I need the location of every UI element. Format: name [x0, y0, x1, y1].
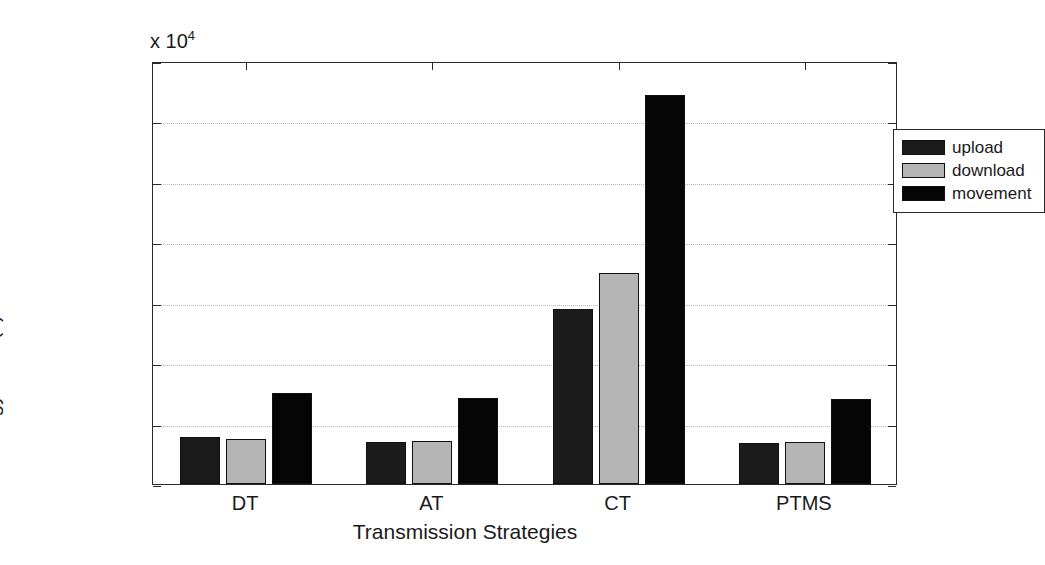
legend-item-download[interactable]: download	[902, 159, 1037, 182]
y-axis-tick-mark	[153, 365, 161, 366]
y-axis-tick-mark	[153, 184, 161, 185]
x-axis-tick-mark-top	[619, 63, 620, 70]
x-axis-tick-mark-top	[432, 63, 433, 70]
bar-dt-upload	[180, 437, 220, 484]
y-axis-tick-mark-right	[888, 244, 896, 245]
bar-ct-movement	[645, 95, 685, 484]
gridline	[153, 123, 896, 124]
plot-area: 00.511.522.533.5 uploaddownloadmovement	[152, 62, 897, 485]
y-axis-tick-mark	[153, 305, 161, 306]
bar-ptms-upload	[739, 443, 779, 484]
bar-at-upload	[366, 442, 406, 484]
legend-swatch-icon	[902, 163, 945, 178]
gridline	[153, 244, 896, 245]
x-axis-tick-label-ptms: PTMS	[724, 492, 884, 515]
legend-item-movement[interactable]: movement	[902, 182, 1037, 205]
y-axis-tick-mark-right	[888, 486, 896, 487]
y-axis-multiplier-base: x 10	[150, 30, 188, 52]
y-axis-multiplier-exponent: 4	[188, 28, 195, 43]
bar-dt-download	[226, 439, 266, 484]
legend-swatch-icon	[902, 140, 945, 155]
y-axis-tick-mark	[153, 63, 161, 64]
x-axis-title: Transmission Strategies	[0, 520, 930, 544]
x-axis-tick-mark-top	[805, 63, 806, 70]
y-axis-tick-mark-right	[888, 365, 896, 366]
y-axis-tick-mark	[153, 426, 161, 427]
gridline	[153, 305, 896, 306]
x-axis-tick-label-at: AT	[351, 492, 511, 515]
x-axis-tick-label-dt: DT	[165, 492, 325, 515]
legend-item-label: download	[952, 161, 1025, 181]
gridline	[153, 184, 896, 185]
x-axis-tick-mark-top	[246, 63, 247, 70]
y-axis-tick-mark-right	[888, 63, 896, 64]
bar-ct-upload	[553, 309, 593, 484]
y-axis-tick-mark-right	[888, 305, 896, 306]
bar-ct-download	[599, 273, 639, 485]
legend-item-label: movement	[952, 184, 1031, 204]
y-axis-tick-mark	[153, 244, 161, 245]
gridline	[153, 426, 896, 427]
legend: uploaddownloadmovement	[893, 129, 1045, 213]
bar-ptms-download	[785, 442, 825, 484]
bar-at-download	[412, 441, 452, 485]
y-axis-tick-mark-right	[888, 123, 896, 124]
y-axis-title: Energy Cost (J)	[0, 238, 4, 538]
legend-item-label: upload	[952, 138, 1003, 158]
bar-at-movement	[458, 398, 498, 484]
legend-item-upload[interactable]: upload	[902, 136, 1037, 159]
legend-swatch-icon	[902, 186, 945, 201]
bar-dt-movement	[272, 393, 312, 484]
y-axis-tick-mark	[153, 486, 161, 487]
x-axis-tick-label-ct: CT	[538, 492, 698, 515]
y-axis-multiplier: x 104	[150, 28, 195, 53]
y-axis-tick-mark-right	[888, 426, 896, 427]
gridline	[153, 365, 896, 366]
y-axis-tick-mark	[153, 123, 161, 124]
bar-ptms-movement	[831, 399, 871, 484]
